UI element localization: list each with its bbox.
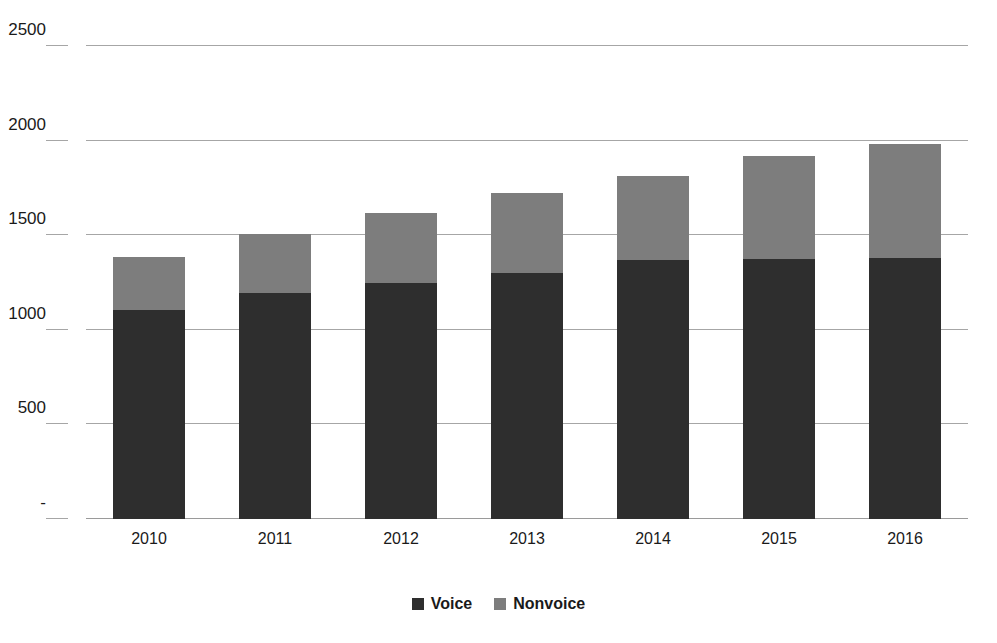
gridline-2000: [86, 140, 968, 141]
bar-group-2010: [113, 257, 185, 519]
bar-segment-voice-2014: [617, 260, 689, 519]
gridline-2500: [86, 45, 968, 46]
bar-segment-voice-2011: [239, 293, 311, 519]
bar-segment-voice-2016: [869, 258, 941, 519]
x-axis: 2010201120122013201420152016: [86, 528, 968, 556]
bar-segment-nonvoice-2010: [113, 257, 185, 310]
y-axis-label-1000: 1000: [0, 304, 46, 321]
bar-group-2014: [617, 176, 689, 519]
bar-group-2015: [743, 156, 815, 519]
bar-segment-voice-2013: [491, 273, 563, 519]
y-axis-tick-1500: [46, 234, 68, 235]
x-axis-label-2012: 2012: [346, 528, 456, 550]
y-axis-tick-2500: [46, 45, 68, 46]
chart-legend: VoiceNonvoice: [0, 596, 997, 612]
legend-label-nonvoice: Nonvoice: [513, 596, 585, 612]
bar-segment-nonvoice-2013: [491, 193, 563, 273]
y-axis-label-2000: 2000: [0, 115, 46, 132]
y-axis-tick-1000: [46, 329, 68, 330]
bar-segment-voice-2010: [113, 310, 185, 519]
bar-segment-nonvoice-2011: [239, 234, 311, 293]
bar-segment-voice-2015: [743, 259, 815, 519]
stacked-bar-chart: 2500200015001000500- 2010201120122013201…: [0, 0, 997, 643]
x-axis-label-2013: 2013: [472, 528, 582, 550]
x-axis-label-2015: 2015: [724, 528, 834, 550]
y-axis-tick-2000: [46, 140, 68, 141]
x-axis-label-2011: 2011: [220, 528, 330, 550]
bar-group-2011: [239, 234, 311, 519]
bar-group-2012: [365, 213, 437, 519]
bar-segment-nonvoice-2016: [869, 144, 941, 258]
legend-item-nonvoice[interactable]: Nonvoice: [494, 596, 585, 612]
legend-label-voice: Voice: [431, 596, 473, 612]
plot-area: [86, 46, 968, 519]
square-swatch-dark-icon: [412, 598, 424, 610]
bar-segment-voice-2012: [365, 283, 437, 520]
y-axis-label-500: 500: [0, 399, 46, 416]
y-axis-tick-0: [46, 518, 68, 519]
bar-segment-nonvoice-2015: [743, 156, 815, 259]
y-axis-label-0: -: [0, 494, 46, 511]
y-axis: 2500200015001000500-: [0, 46, 46, 519]
x-axis-label-2016: 2016: [850, 528, 960, 550]
y-axis-label-2500: 2500: [0, 21, 46, 38]
bar-segment-nonvoice-2012: [365, 213, 437, 282]
y-axis-tick-500: [46, 423, 68, 424]
square-swatch-gray-icon: [494, 598, 506, 610]
bar-group-2016: [869, 144, 941, 519]
bar-group-2013: [491, 193, 563, 519]
x-axis-label-2010: 2010: [94, 528, 204, 550]
legend-item-voice[interactable]: Voice: [412, 596, 473, 612]
x-axis-label-2014: 2014: [598, 528, 708, 550]
bar-segment-nonvoice-2014: [617, 176, 689, 260]
y-axis-label-1500: 1500: [0, 210, 46, 227]
